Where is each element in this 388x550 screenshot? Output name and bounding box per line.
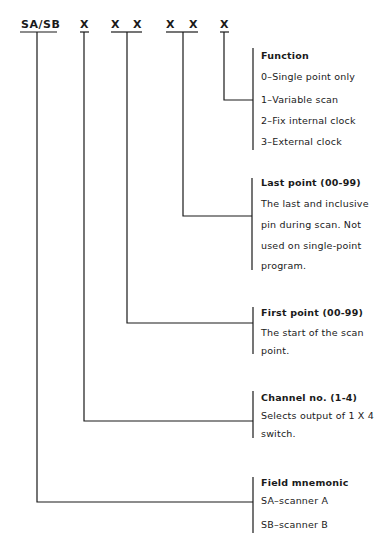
last-point-line-2: pin during scan. Not — [261, 219, 361, 230]
first-point-connector — [127, 32, 253, 323]
first-point-line-2: point. — [261, 345, 289, 356]
command-format-diagram: SA/SB X X X X X X Function 0–Single poin… — [0, 0, 388, 550]
last-point-connector — [183, 32, 252, 216]
field-mnemonic-line-1: SA–scanner A — [261, 495, 328, 506]
mnemonic-connector — [37, 32, 253, 502]
function-connector — [224, 32, 253, 100]
channel-connector — [84, 32, 253, 421]
function-option-1: 1–Variable scan — [261, 94, 338, 105]
channel-line-1: Selects output of 1 X 4 — [261, 410, 374, 421]
last-point-title: Last point (00-99) — [261, 177, 361, 188]
function-option-2: 2–Fix internal clock — [261, 115, 356, 126]
last-point-line-3: used on single-point — [261, 240, 362, 251]
field-last-point-digit-1: X — [166, 19, 175, 31]
field-first-point-digit-2: X — [133, 19, 142, 31]
field-last-point-digit-2: X — [189, 19, 198, 31]
field-function-label: X — [220, 19, 229, 31]
channel-title: Channel no. (1-4) — [261, 392, 357, 403]
first-point-title: First point (00-99) — [261, 307, 363, 318]
function-title: Function — [261, 50, 309, 61]
channel-line-2: switch. — [261, 428, 296, 439]
first-point-line-1: The start of the scan — [261, 327, 364, 338]
field-channel-label: X — [80, 19, 89, 31]
field-first-point-digit-1: X — [111, 19, 120, 31]
last-point-line-4: program. — [261, 260, 306, 271]
function-option-3: 3–External clock — [261, 136, 342, 147]
last-point-line-1: The last and inclusive — [261, 198, 369, 209]
function-option-0: 0–Single point only — [261, 71, 355, 82]
connector-lines — [0, 0, 388, 550]
field-mnemonic-line-2: SB–scanner B — [261, 519, 328, 530]
field-mnemonic-label: SA/SB — [21, 19, 60, 31]
field-mnemonic-title: Field mnemonic — [261, 477, 349, 488]
